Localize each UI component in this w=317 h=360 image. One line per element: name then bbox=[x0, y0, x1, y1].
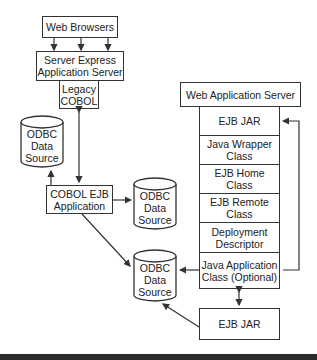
web-application-server-box: Web Application Server bbox=[180, 82, 301, 107]
ejb-home-class-cell: EJB Home Class bbox=[200, 165, 279, 194]
ejb-jar-cell: EJB JAR bbox=[200, 107, 279, 136]
odbc-data-source-upper-left: ODBC Data Source bbox=[20, 115, 64, 168]
data-source-label: ODBC Data Source bbox=[138, 182, 171, 226]
bottom-divider-bar bbox=[0, 354, 317, 360]
odbc-data-source-lower: ODBC Data Source bbox=[133, 249, 177, 302]
web-browsers-box: Web Browsers bbox=[42, 16, 118, 38]
data-source-label: ODBC Data Source bbox=[138, 254, 171, 298]
java-wrapper-class-cell: Java Wrapper Class bbox=[200, 136, 279, 165]
java-application-class-cell: Java Application Class (Optional) bbox=[200, 253, 279, 288]
server-express-box: Server Express Application Server bbox=[36, 51, 124, 81]
ejb-component-stack: EJB JAR Java Wrapper Class EJB Home Clas… bbox=[199, 106, 280, 289]
odbc-data-source-middle: ODBC Data Source bbox=[133, 177, 177, 230]
data-source-label: ODBC Data Source bbox=[25, 120, 58, 164]
ejb-remote-class-cell: EJB Remote Class bbox=[200, 194, 279, 223]
ejb-jar-bottom-box: EJB JAR bbox=[199, 308, 280, 340]
deployment-descriptor-cell: Deployment Descriptor bbox=[200, 223, 279, 253]
cobol-ejb-application-box: COBOL EJB Application bbox=[46, 185, 113, 214]
legacy-cobol-box: Legacy COBOL bbox=[59, 80, 99, 109]
